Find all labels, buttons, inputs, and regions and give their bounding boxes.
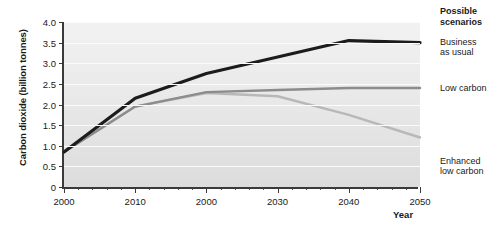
y-tick-label: 1.0 <box>43 140 56 151</box>
plot-inner: 00.51.01.52.02.53.03.54.0 20002010200020… <box>64 22 420 187</box>
legend-entry: Low carbon <box>440 83 487 94</box>
x-tick-label: 2050 <box>409 196 430 207</box>
x-axis-title: Year <box>393 209 413 220</box>
x-tick-label: 2000 <box>196 196 217 207</box>
y-tick-label: 0.5 <box>43 161 56 172</box>
gridline <box>64 22 420 23</box>
y-tick-label: 2.5 <box>43 78 56 89</box>
chart-legend: Possible scenarios Business as usualLow … <box>440 6 502 27</box>
y-tick-label: 2.0 <box>43 99 56 110</box>
legend-entry: Enhanced low carbon <box>440 156 484 177</box>
gridline <box>64 84 420 85</box>
gridline <box>64 43 420 44</box>
y-tick <box>59 43 64 44</box>
y-tick-label: 3.5 <box>43 37 56 48</box>
legend-entry: Business as usual <box>440 37 477 58</box>
y-tick <box>59 22 64 23</box>
gridline <box>64 146 420 147</box>
gridline <box>64 166 420 167</box>
y-tick-label: 4.0 <box>43 17 56 28</box>
y-tick <box>59 84 64 85</box>
y-tick-label: 1.5 <box>43 120 56 131</box>
y-tick-label: 0 <box>51 182 56 193</box>
y-axis-title: Carbon dioxide (billion tonnes) <box>17 13 28 183</box>
y-tick <box>59 105 64 106</box>
series-line <box>64 41 420 152</box>
x-tick-label: 2030 <box>267 196 288 207</box>
x-tick-label: 2010 <box>125 196 146 207</box>
x-axis-line <box>62 187 418 189</box>
gridline <box>64 63 420 64</box>
plot-area: 00.51.01.52.02.53.03.54.0 20002010200020… <box>62 22 420 187</box>
y-tick <box>59 125 64 126</box>
series-line <box>64 93 420 152</box>
chart-figure: Carbon dioxide (billion tonnes) 00.51.01… <box>0 0 502 232</box>
y-tick <box>59 63 64 64</box>
y-tick <box>59 146 64 147</box>
x-tick-label: 2040 <box>338 196 359 207</box>
y-tick <box>59 166 64 167</box>
gridline <box>64 125 420 126</box>
gridline <box>64 105 420 106</box>
legend-title: Possible scenarios <box>440 6 502 27</box>
x-tick <box>420 187 421 193</box>
x-tick-label: 2000 <box>53 196 74 207</box>
y-tick-label: 3.0 <box>43 58 56 69</box>
